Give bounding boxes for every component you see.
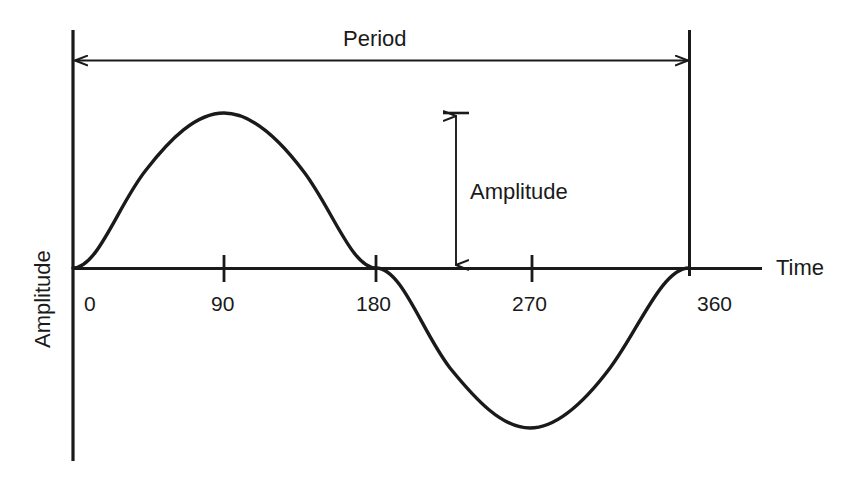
x-axis-label: Time bbox=[776, 257, 824, 279]
tick-label-90: 90 bbox=[211, 293, 234, 314]
diagram-canvas bbox=[0, 0, 863, 481]
sine-curve bbox=[73, 113, 689, 428]
period-label: Period bbox=[343, 28, 407, 50]
tick-label-180: 180 bbox=[356, 293, 391, 314]
tick-label-0: 0 bbox=[84, 293, 96, 314]
amplitude-annotation-label: Amplitude bbox=[470, 181, 568, 203]
y-axis-label: Amplitude bbox=[32, 250, 54, 348]
tick-label-360: 360 bbox=[697, 293, 732, 314]
sine-wave-diagram: Period Amplitude Time Amplitude 0 90 180… bbox=[0, 0, 863, 481]
tick-label-270: 270 bbox=[512, 293, 547, 314]
